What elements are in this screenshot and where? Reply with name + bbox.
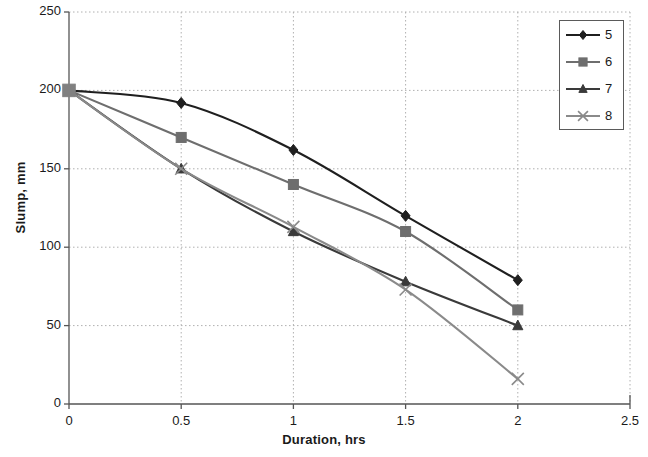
legend-sample-svg [564,55,602,69]
legend-item-8[interactable]: 8 [560,102,623,129]
gridlines [69,12,630,404]
data-marker-square [579,57,587,65]
y-axis-title: Slump, mm [13,118,28,278]
legend-label: 8 [605,108,612,123]
legend-marker-square-icon [564,55,602,69]
legend-sample-svg [564,109,602,123]
data-marker-diamond [579,30,586,39]
legend-marker-triangle-icon [564,82,602,96]
data-marker-diamond [289,144,298,155]
legend-item-6[interactable]: 6 [560,48,623,75]
data-marker-cross [512,373,524,385]
x-tick-label: 0 [49,413,89,428]
y-tick-label: 250 [17,3,61,18]
legend-marker-cross-icon [564,109,602,123]
legend-label: 6 [605,54,612,69]
x-tick-label: 1 [273,413,313,428]
series-7 [69,90,523,329]
legend-sample-svg [564,82,602,96]
x-axis-title: Duration, hrs [0,432,648,447]
x-tick-label: 1.5 [386,413,426,428]
y-tick-label: 100 [17,238,61,253]
y-tick-label: 50 [17,317,61,332]
data-marker-square [63,84,76,97]
legend-item-7[interactable]: 7 [560,75,623,102]
series-start-marker [63,84,76,97]
data-marker-square [513,305,523,315]
x-tick-label: 0.5 [161,413,201,428]
y-tick-label: 200 [17,81,61,96]
legend-item-5[interactable]: 5 [560,21,623,48]
data-marker-square [401,227,411,237]
legend-sample-svg [564,28,602,42]
legend-label: 7 [605,81,612,96]
data-marker-square [176,132,186,142]
legend-label: 5 [605,27,612,42]
x-tick-label: 2 [498,413,538,428]
data-marker-diamond [513,275,522,286]
series-8 [69,90,524,385]
axes [64,12,630,409]
slump-duration-chart: Duration, hrs Slump, mm 050100150200250 … [0,0,648,457]
data-marker-diamond [177,97,186,108]
data-marker-square [288,179,298,189]
y-tick-label: 150 [17,160,61,175]
legend-marker-diamond-icon [564,28,602,42]
plot-area [0,0,648,457]
y-tick-label: 0 [17,395,61,410]
x-tick-label: 2.5 [610,413,648,428]
series-6 [69,90,523,315]
legend: 5678 [559,20,624,130]
data-marker-diamond [401,210,410,221]
